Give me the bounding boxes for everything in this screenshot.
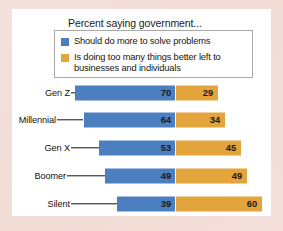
- category-label: Millennial: [19, 115, 56, 125]
- bar-blue: 49: [105, 168, 175, 183]
- bar-orange: 34: [176, 112, 225, 127]
- legend-swatch-blue-icon: [61, 38, 69, 46]
- chart-plot-area: Gen Z 70 29 Millennial 64: [12, 79, 271, 216]
- bar-value-label: 70: [161, 88, 171, 98]
- legend-item-doing-too-many: Is doing too many things better left to …: [61, 52, 246, 73]
- bar-value-label: 49: [232, 171, 242, 181]
- bar-row: Gen X 53 45: [12, 134, 271, 161]
- bar-orange: 60: [176, 196, 262, 211]
- bar-blue: 70: [75, 85, 175, 100]
- bar-value-label: 29: [203, 88, 213, 98]
- bar-blue: 39: [117, 196, 175, 211]
- category-label: Gen Z: [45, 88, 70, 98]
- bar-row: Gen Z 70 29: [12, 79, 271, 106]
- bar-row: Silent 39 60: [12, 190, 271, 217]
- bar-value-label: 49: [161, 171, 171, 181]
- leader-line: [57, 119, 83, 120]
- bar-row: Boomer 49 49: [12, 162, 271, 189]
- bar-row: Millennial 64 34: [12, 106, 271, 133]
- chart-figure: Percent saying government... Should do m…: [0, 0, 283, 231]
- bar-orange: 29: [176, 85, 218, 100]
- legend-swatch-orange-icon: [61, 54, 69, 62]
- leader-line: [71, 147, 99, 148]
- bar-orange: 45: [176, 140, 241, 155]
- bar-value-label: 60: [247, 199, 257, 209]
- bar-value-label: 64: [161, 115, 171, 125]
- leader-line: [67, 175, 105, 176]
- page-title: Percent saying government...: [68, 17, 202, 29]
- leader-line: [71, 203, 117, 204]
- category-label: Boomer: [34, 171, 66, 181]
- category-label: Gen X: [44, 143, 70, 153]
- bar-orange: 49: [176, 168, 247, 183]
- chart-legend: Should do more to solve problems Is doin…: [54, 30, 253, 78]
- bar-value-label: 45: [226, 143, 236, 153]
- legend-item-should-do-more: Should do more to solve problems: [61, 36, 210, 47]
- category-label: Silent: [48, 199, 70, 209]
- bar-value-label: 53: [161, 143, 171, 153]
- legend-item-label: Should do more to solve problems: [74, 36, 210, 47]
- bar-value-label: 34: [210, 115, 220, 125]
- bar-blue: 53: [99, 140, 175, 155]
- legend-item-label: Is doing too many things better left to …: [74, 52, 246, 73]
- bar-value-label: 39: [161, 199, 171, 209]
- chart-card: Percent saying government... Should do m…: [12, 9, 271, 216]
- bar-blue: 64: [84, 112, 175, 127]
